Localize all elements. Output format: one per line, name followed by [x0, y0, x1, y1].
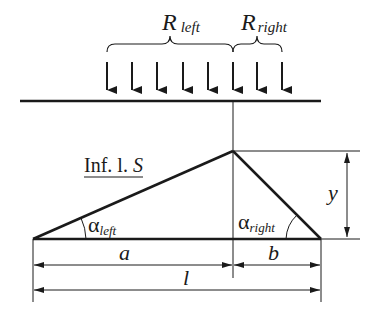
brace-r-left	[107, 36, 233, 52]
alpha-left-arc	[81, 218, 86, 239]
dim-b-label: b	[268, 240, 279, 265]
r-left-label: Rleft	[161, 9, 201, 35]
brace-r-right	[233, 36, 282, 52]
influence-line-diagram: Rleft Rright y Inf. l. S αleft αright a	[0, 0, 377, 320]
dim-a-label: a	[119, 240, 130, 265]
r-right-label: Rright	[240, 9, 288, 35]
influence-line-triangle	[33, 151, 321, 239]
alpha-right-label: αright	[238, 209, 275, 235]
alpha-right-arc	[286, 215, 297, 239]
dim-y-label: y	[326, 180, 338, 205]
alpha-left-label: αleft	[88, 212, 117, 238]
dim-l-label: l	[183, 265, 189, 290]
influence-line-label: Inf. l. S	[84, 154, 143, 176]
distributed-load-arrows	[107, 62, 282, 90]
